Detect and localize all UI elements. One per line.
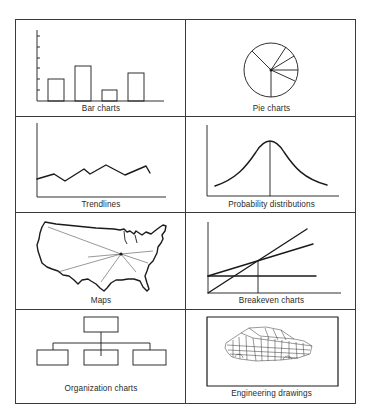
panel-engineering-drawings: Engineering drawings [186,310,357,405]
chart-types-grid: Bar charts Pie charts Trendlines [15,19,356,404]
caption-engineering-drawings: Engineering drawings [186,389,357,398]
panel-organization-charts: Organization charts [16,310,186,405]
caption-breakeven-charts: Breakeven charts [186,296,357,305]
panel-maps: Maps [16,213,186,310]
caption-pie-charts: Pie charts [186,104,357,113]
panel-trendlines: Trendlines [16,117,186,213]
panel-bar-charts: Bar charts [16,20,186,117]
panel-pie-charts: Pie charts [186,20,357,117]
bell-curve-icon [186,117,357,213]
panel-probability-distributions: Probability distributions [186,117,357,213]
caption-bar-charts: Bar charts [16,104,186,113]
trendline-icon [16,117,186,213]
panel-breakeven-charts: Breakeven charts [186,213,357,310]
pie-chart-icon [186,20,357,117]
caption-probability-distributions: Probability distributions [186,200,357,209]
caption-maps: Maps [16,296,186,305]
bar-chart-icon [16,20,186,117]
caption-trendlines: Trendlines [16,200,186,209]
caption-organization-charts: Organization charts [16,384,186,393]
